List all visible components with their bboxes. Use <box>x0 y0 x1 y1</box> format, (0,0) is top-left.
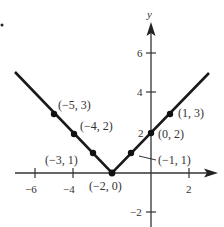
point-1-3 <box>167 111 173 117</box>
absolute-value-graph: −6 −4 2 y 6 4 2 −2 (−5, 3) (−4, 2) (−3, … <box>0 0 224 227</box>
y-axis: y 6 4 2 −2 <box>130 8 156 227</box>
y-tick-label: 6 <box>137 47 143 59</box>
label-0-2: (0, 2) <box>158 127 184 141</box>
point-m1-1 <box>128 150 134 156</box>
point-m4-2 <box>71 131 77 137</box>
label-m2-0: (−2, 0) <box>89 179 122 193</box>
x-tick-label: −4 <box>63 183 75 195</box>
y-axis-label: y <box>146 8 152 20</box>
point-labels: (−5, 3) (−4, 2) (−3, 1) (−2, 0) (−1, 1) … <box>45 98 204 193</box>
leader-line <box>139 156 156 160</box>
y-tick-label: 4 <box>137 86 143 98</box>
stray-dot <box>1 24 4 27</box>
point-0-2 <box>148 130 154 136</box>
label-m5-3: (−5, 3) <box>58 98 91 112</box>
label-m3-1: (−3, 1) <box>45 153 78 167</box>
label-m4-2: (−4, 2) <box>80 119 113 133</box>
x-tick-label: −6 <box>25 183 37 195</box>
x-tick-label: 2 <box>186 183 192 195</box>
y-tick-label: 2 <box>138 127 144 139</box>
label-m1-1: (−1, 1) <box>158 153 191 167</box>
point-m3-1 <box>90 150 96 156</box>
point-m5-3 <box>51 111 57 117</box>
point-m2-0 <box>109 170 116 177</box>
label-1-3: (1, 3) <box>178 106 204 120</box>
y-tick-label: −2 <box>130 206 142 218</box>
